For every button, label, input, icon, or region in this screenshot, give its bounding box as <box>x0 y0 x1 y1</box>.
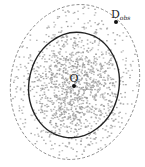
observed-label-main: D <box>111 8 120 21</box>
observed-label-sub: obs <box>120 14 131 21</box>
diagram-canvas: O Dobs <box>0 0 145 167</box>
observed-label: Dobs <box>111 8 130 21</box>
center-label: O <box>70 72 79 85</box>
